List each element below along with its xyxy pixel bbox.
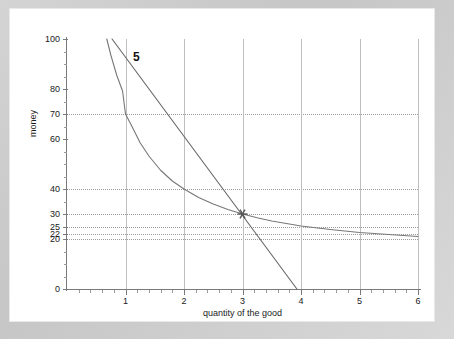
x-axis-minor-tick (324, 290, 325, 293)
series-indifference-curve (107, 39, 418, 237)
x-axis-tick-label: 6 (415, 297, 420, 306)
y-axis-tick-label: 100 (45, 35, 60, 44)
image-frame: money quantity of the good 0202225304060… (0, 0, 454, 339)
x-axis-minor-tick (406, 290, 407, 293)
x-axis-minor-tick (102, 290, 103, 293)
y-axis-tick-label: 80 (50, 85, 60, 94)
x-axis-minor-tick (137, 290, 138, 293)
x-axis-tick-label: 1 (123, 297, 128, 306)
y-axis-tick-label: 40 (50, 185, 60, 194)
x-axis-minor-tick (278, 290, 279, 293)
x-axis-tick-label: 4 (298, 297, 303, 306)
x-axis-minor-tick (395, 290, 396, 293)
x-axis-tick (126, 290, 127, 295)
x-axis-tick (360, 290, 361, 295)
x-axis-tick (301, 290, 302, 295)
curve-label-5-annotation: 5 (133, 50, 140, 64)
x-axis-tick (418, 290, 419, 295)
y-axis-tick-label: 60 (50, 135, 60, 144)
chart-curves (67, 39, 418, 289)
y-axis-title: money (28, 110, 38, 137)
x-axis-tick-label: 3 (240, 297, 245, 306)
x-axis-minor-tick (79, 290, 80, 293)
chart-panel: money quantity of the good 0202225304060… (10, 9, 434, 321)
x-axis-tick (243, 290, 244, 295)
x-axis-minor-tick (336, 290, 337, 293)
x-axis-minor-tick (371, 290, 372, 293)
x-axis-minor-tick (219, 290, 220, 293)
x-axis-tick-label: 2 (181, 297, 186, 306)
x-axis-minor-tick (266, 290, 267, 293)
x-axis-minor-tick (114, 290, 115, 293)
x-axis-minor-tick (90, 290, 91, 293)
x-axis-minor-tick (313, 290, 314, 293)
x-axis-title: quantity of the good (67, 308, 418, 318)
x-axis-minor-tick (383, 290, 384, 293)
x-axis-tick-label: 5 (357, 297, 362, 306)
x-axis-minor-tick (207, 290, 208, 293)
x-axis-minor-tick (348, 290, 349, 293)
x-axis-minor-tick (172, 290, 173, 293)
plot-area: 02022253040607080100 123456 5 (67, 39, 418, 289)
x-axis-minor-tick (254, 290, 255, 293)
x-axis-minor-tick (196, 290, 197, 293)
x-axis-tick (184, 290, 185, 295)
x-axis-minor-tick (149, 290, 150, 293)
y-axis-tick-label: 30 (50, 210, 60, 219)
vertical-gridline (418, 39, 419, 289)
x-axis-minor-tick (161, 290, 162, 293)
x-axis-minor-tick (289, 290, 290, 293)
x-axis-minor-tick (231, 290, 232, 293)
y-axis-tick-label: 0 (55, 285, 60, 294)
series-budget-line (112, 39, 297, 289)
y-axis-tick-label: 70 (50, 110, 60, 119)
y-axis-tick-label: 25 (50, 223, 60, 232)
y-axis-tick (63, 289, 68, 290)
